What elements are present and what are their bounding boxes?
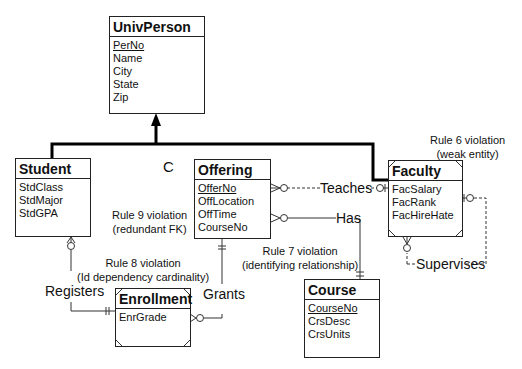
note-rule8: Rule 8 violation (Id dependency cardinal…	[77, 256, 209, 284]
note-line: (weak entity)	[430, 147, 505, 161]
entity-title: UnivPerson	[110, 17, 204, 37]
attribute-pk: PerNo	[113, 39, 201, 52]
note-line: (Id dependency cardinality)	[77, 270, 209, 284]
note-line: (redundant FK)	[112, 222, 187, 236]
note-rule7: Rule 7 violation (identifying relationsh…	[242, 244, 358, 272]
attribute: CourseNo	[198, 221, 267, 234]
entity-title: Course	[305, 280, 379, 300]
weak-entity-corner-icon	[184, 340, 190, 346]
weak-entity-corner-icon	[456, 230, 462, 236]
relationship-registers[interactable]: Registers	[45, 283, 104, 299]
entity-title: Faculty	[389, 161, 462, 181]
attribute: FacRank	[392, 196, 459, 209]
entity-faculty[interactable]: Faculty FacSalary FacRank FacHireHate	[388, 160, 463, 237]
note-line: Rule 6 violation	[430, 133, 505, 147]
attribute: FacSalary	[392, 183, 459, 196]
generalization-arrow-icon	[151, 113, 161, 126]
attribute: CrsUnits	[308, 328, 376, 341]
note-line: Rule 8 violation	[77, 256, 209, 270]
relationship-has[interactable]: Has	[336, 210, 361, 226]
attribute: FacHireHate	[392, 209, 459, 222]
weak-entity-corner-icon	[456, 161, 462, 167]
note-rule6: Rule 6 violation (weak entity)	[430, 133, 505, 161]
attribute: State	[113, 78, 201, 91]
attribute: StdGPA	[19, 207, 87, 220]
note-rule9: Rule 9 violation (redundant FK)	[112, 208, 187, 236]
attribute: Zip	[113, 91, 201, 104]
entity-title: Enrollment	[116, 289, 190, 309]
entity-course[interactable]: Course CourseNo CrsDesc CrsUnits	[304, 279, 380, 358]
relationship-grants[interactable]: Grants	[203, 286, 245, 302]
attribute-pk: CourseNo	[308, 302, 376, 315]
entity-univperson[interactable]: UnivPerson PerNo Name City State Zip	[109, 16, 205, 114]
generalization-constraint-label: C	[163, 158, 174, 175]
entity-student[interactable]: Student StdClass StdMajor StdGPA	[15, 158, 91, 237]
entity-offering[interactable]: Offering OfferNo OffLocation OffTime Cou…	[194, 159, 271, 239]
entity-title: Offering	[195, 160, 270, 180]
weak-entity-corner-icon	[389, 161, 395, 167]
attribute: StdClass	[19, 181, 87, 194]
weak-entity-corner-icon	[184, 289, 190, 295]
weak-entity-corner-icon	[116, 340, 122, 346]
weak-entity-corner-icon	[116, 289, 122, 295]
note-line: Rule 9 violation	[112, 208, 187, 222]
attribute: CrsDesc	[308, 315, 376, 328]
entity-title: Student	[16, 159, 90, 179]
attribute: OffLocation	[198, 195, 267, 208]
attribute: OffTime	[198, 208, 267, 221]
attribute-pk: OfferNo	[198, 182, 267, 195]
attribute: EnrGrade	[119, 311, 187, 324]
entity-enrollment[interactable]: Enrollment EnrGrade	[115, 288, 191, 347]
relationship-supervises[interactable]: Supervises	[416, 256, 485, 272]
note-line: Rule 7 violation	[242, 244, 358, 258]
weak-entity-corner-icon	[389, 230, 395, 236]
attribute: StdMajor	[19, 194, 87, 207]
attribute: Name	[113, 52, 201, 65]
note-line: (identifying relationship)	[242, 258, 358, 272]
attribute: City	[113, 65, 201, 78]
relationship-teaches[interactable]: Teaches	[320, 180, 372, 196]
